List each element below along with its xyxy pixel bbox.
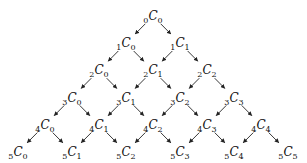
arrow xyxy=(81,133,91,143)
arrow xyxy=(161,133,171,143)
arrow xyxy=(135,133,145,143)
coefficient-node: 3C2 xyxy=(170,91,189,107)
arrow xyxy=(189,78,199,88)
arrow xyxy=(27,133,37,143)
coefficient-node: 3C1 xyxy=(116,91,135,107)
arrow xyxy=(188,51,198,61)
arrow xyxy=(269,133,279,143)
arrow xyxy=(108,51,118,61)
arrow xyxy=(215,133,225,143)
coefficient-node: 1C1 xyxy=(170,36,189,52)
arrow xyxy=(162,51,172,61)
coefficient-node: 3C3 xyxy=(224,91,243,107)
coefficient-node: 2C2 xyxy=(197,63,216,79)
coefficient-node: 4C4 xyxy=(251,118,270,134)
arrow xyxy=(53,133,63,143)
arrow xyxy=(161,78,171,88)
binomial-triangle-diagram: 0C01C01C12C02C12C23C03C13C23C34C04C14C24… xyxy=(0,0,307,163)
arrow xyxy=(242,105,252,115)
arrow xyxy=(107,133,117,143)
arrow xyxy=(54,105,64,115)
coefficient-node: 1C0 xyxy=(116,36,135,52)
arrow xyxy=(107,78,117,88)
arrow xyxy=(216,105,226,115)
coefficient-node: 4C0 xyxy=(35,118,54,134)
arrow xyxy=(108,105,118,115)
coefficient-node: 2C0 xyxy=(89,63,108,79)
arrow xyxy=(188,105,198,115)
arrow xyxy=(135,24,145,34)
coefficient-node: 2C1 xyxy=(143,63,162,79)
coefficient-node: 5C3 xyxy=(170,145,189,161)
coefficient-node: 5C4 xyxy=(224,145,243,161)
arrow xyxy=(134,105,144,115)
coefficient-nodes: 0C01C01C12C02C12C23C03C13C23C34C04C14C24… xyxy=(8,9,297,161)
arrow xyxy=(134,51,144,61)
coefficient-node: 5C0 xyxy=(8,145,27,161)
coefficient-node: 3C0 xyxy=(62,91,81,107)
coefficient-node: 4C2 xyxy=(143,118,162,134)
arrow xyxy=(135,78,145,88)
arrow xyxy=(80,105,90,115)
arrow xyxy=(189,133,199,143)
arrow xyxy=(243,133,253,143)
coefficient-node: 4C3 xyxy=(197,118,216,134)
coefficient-node: 4C1 xyxy=(89,118,108,134)
arrow xyxy=(162,105,172,115)
coefficient-node: 0C0 xyxy=(143,9,162,25)
arrow xyxy=(81,78,91,88)
coefficient-node: 5C1 xyxy=(62,145,81,161)
arrow xyxy=(215,78,225,88)
arrow xyxy=(161,24,171,34)
coefficient-node: 5C2 xyxy=(116,145,135,161)
coefficient-node: 5C5 xyxy=(278,145,297,161)
